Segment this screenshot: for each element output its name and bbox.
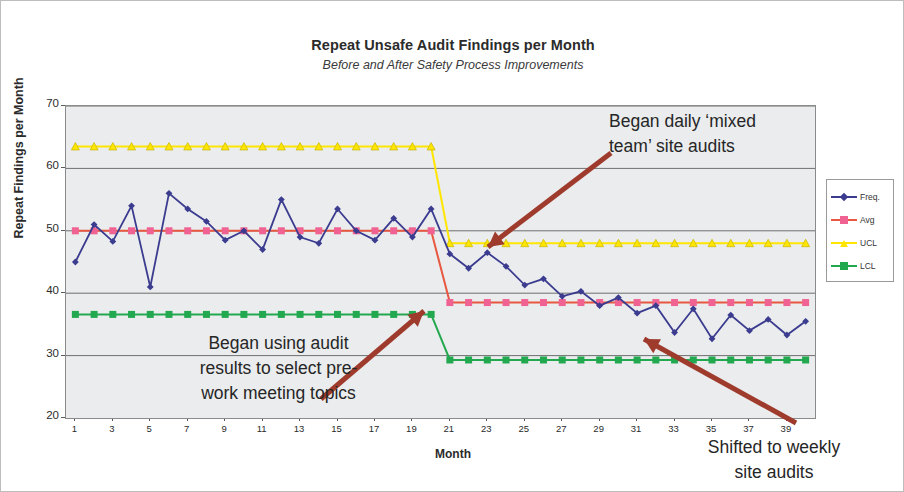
annotation-line: Began using audit — [141, 331, 416, 356]
legend-label: LCL — [857, 261, 876, 271]
annotation-line: team’ site audits — [609, 134, 859, 159]
legend-swatch-icon — [831, 214, 857, 226]
legend-label: UCL — [857, 238, 877, 248]
legend-item-lcl[interactable]: LCL — [831, 254, 889, 277]
annotation-line: work meeting topics — [141, 381, 416, 406]
annotation-arrows — [1, 1, 904, 492]
legend-swatch-icon — [831, 237, 857, 249]
arrow-anno3 — [644, 339, 796, 423]
annotation-weekly-site-audits: Shifted to weeklysite audits — [649, 435, 899, 485]
legend-label: Freq. — [857, 192, 880, 202]
annotation-line: Shifted to weekly — [649, 435, 899, 460]
annotation-line: Began daily ‘mixed — [609, 109, 859, 134]
chart-frame: Repeat Unsafe Audit Findings per Month B… — [0, 0, 904, 492]
legend-swatch-icon — [831, 260, 857, 272]
arrow-anno1 — [488, 153, 611, 247]
annotation-mixed-team-audits: Began daily ‘mixedteam’ site audits — [609, 109, 859, 159]
chart-legend: Freq.AvgUCLLCL — [826, 179, 894, 282]
annotation-line: results to select pre- — [141, 356, 416, 381]
legend-item-avg[interactable]: Avg — [831, 208, 889, 231]
legend-label: Avg — [857, 215, 875, 225]
annotation-pre-work-meeting-topics: Began using auditresults to select pre-w… — [141, 331, 416, 406]
legend-item-freq[interactable]: Freq. — [831, 185, 889, 208]
legend-swatch-icon — [831, 191, 857, 203]
annotation-line: site audits — [649, 460, 899, 485]
legend-item-ucl[interactable]: UCL — [831, 231, 889, 254]
